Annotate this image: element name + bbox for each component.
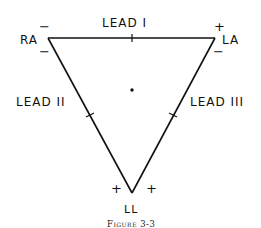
ll-sign-left: +: [111, 181, 122, 196]
ra-sign-top: −: [39, 19, 50, 34]
la-label: LA: [222, 33, 239, 47]
lead-i-label: LEAD I: [102, 16, 147, 30]
figure-caption: Figure 3-3: [107, 219, 155, 228]
ll-sign-right: +: [146, 181, 157, 196]
center-dot: [130, 88, 133, 91]
la-sign-top: +: [214, 19, 225, 34]
ra-label: RA: [20, 33, 38, 47]
lead-ii-label: LEAD II: [16, 95, 66, 109]
ll-label: LL: [124, 203, 138, 216]
lead-iii-label: LEAD III: [190, 95, 244, 109]
einthoven-triangle-diagram: RA LA LL − − + − + + LEAD I LEAD II LEAD…: [0, 0, 261, 228]
la-sign-bottom: −: [213, 44, 224, 59]
ra-sign-bottom: −: [39, 44, 50, 59]
